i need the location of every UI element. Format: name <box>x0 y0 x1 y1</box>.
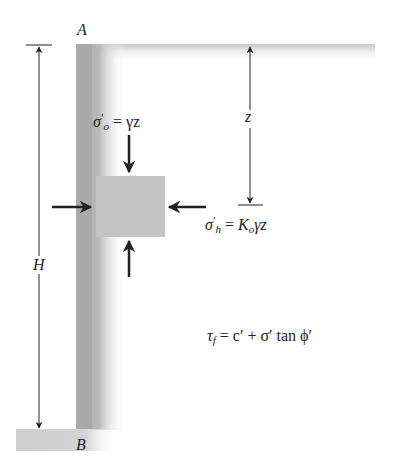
horizontal-stress-equation: σ′h = Koγz <box>205 215 267 235</box>
ground-base-bottom <box>16 429 116 451</box>
point-a-label: A <box>77 22 87 38</box>
depth-label: z <box>245 109 251 125</box>
soil-element <box>96 176 165 237</box>
ground-surface-top <box>90 44 375 62</box>
vertical-stress-equation: σ′o = γz <box>93 112 140 132</box>
height-label: H <box>33 257 45 273</box>
earth-pressure-diagram <box>0 0 398 458</box>
point-b-label: B <box>76 437 86 453</box>
shear-strength-equation: τf = c′ + σ′ tan ϕ′ <box>207 328 312 346</box>
